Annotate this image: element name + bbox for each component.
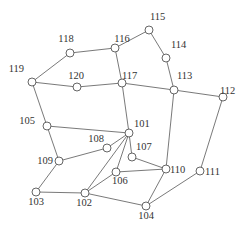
edge-117-113 — [122, 83, 174, 90]
node-label-103: 103 — [28, 196, 44, 207]
edge-118-116 — [70, 48, 115, 53]
edge-112-111 — [200, 97, 223, 171]
edge-119-120 — [32, 82, 77, 87]
node-107 — [128, 153, 136, 161]
edge-102-104 — [85, 193, 146, 206]
node-label-109: 109 — [37, 155, 53, 166]
node-label-120: 120 — [68, 70, 84, 81]
node-118 — [66, 49, 74, 57]
node-label-104: 104 — [138, 210, 155, 221]
node-108 — [103, 144, 111, 152]
network-diagram: 1011021031041051061071081091101111121131… — [0, 0, 247, 233]
edge-115-114 — [149, 30, 166, 58]
node-110 — [162, 165, 170, 173]
node-109 — [55, 157, 63, 165]
edge-117-101 — [122, 83, 129, 133]
node-114 — [162, 54, 170, 62]
edge-103-102 — [36, 192, 85, 193]
node-119 — [28, 78, 36, 86]
edge-118-119 — [32, 53, 70, 82]
node-120 — [73, 83, 81, 91]
node-104 — [142, 202, 150, 210]
node-label-114: 114 — [171, 39, 187, 50]
node-label-117: 117 — [122, 70, 137, 81]
edge-108-109 — [59, 148, 107, 161]
node-116 — [111, 44, 119, 52]
edge-106-101 — [116, 133, 129, 172]
edge-111-104 — [146, 171, 200, 206]
edge-106-110 — [116, 169, 166, 172]
node-113 — [170, 86, 178, 94]
node-label-118: 118 — [58, 33, 73, 44]
node-label-115: 115 — [150, 11, 165, 22]
node-label-105: 105 — [19, 115, 35, 126]
node-label-113: 113 — [177, 70, 192, 81]
labels-layer: 1011021031041051061071081091101111121131… — [9, 11, 236, 221]
node-label-107: 107 — [136, 141, 152, 152]
node-label-101: 101 — [134, 118, 150, 129]
node-105 — [43, 122, 51, 130]
node-label-112: 112 — [220, 85, 235, 96]
node-label-119: 119 — [9, 63, 24, 74]
node-101 — [125, 129, 133, 137]
node-102 — [81, 189, 89, 197]
edge-120-117 — [77, 83, 122, 87]
node-111 — [196, 167, 204, 175]
node-label-110: 110 — [170, 164, 185, 175]
edge-116-117 — [115, 48, 122, 83]
node-label-108: 108 — [88, 133, 104, 144]
node-label-102: 102 — [76, 197, 92, 208]
edge-107-110 — [132, 157, 166, 169]
node-115 — [145, 26, 153, 34]
node-label-111: 111 — [205, 166, 220, 177]
node-label-106: 106 — [112, 175, 128, 186]
edge-110-104 — [146, 169, 166, 206]
edge-113-112 — [174, 90, 223, 97]
node-103 — [32, 188, 40, 196]
edge-114-113 — [166, 58, 174, 90]
node-label-116: 116 — [114, 33, 129, 44]
edge-113-110 — [166, 90, 174, 169]
edge-105-101 — [47, 126, 129, 133]
